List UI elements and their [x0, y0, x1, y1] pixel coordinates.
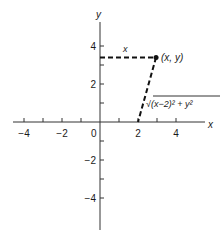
x-tick-label: 2 [135, 128, 141, 139]
y-tick-label: −2 [85, 155, 97, 166]
coordinate-diagram: −4−22442−2−4 y x 0 (x, y) x √(x−2)² + y² [0, 0, 220, 241]
x-tick-label: −2 [56, 128, 68, 139]
point-marker [154, 55, 159, 60]
focus-distance-segment [138, 57, 156, 122]
y-axis-label: y [95, 9, 102, 20]
x-tick-label: −4 [18, 128, 30, 139]
y-tick-label: 4 [90, 41, 96, 52]
y-tick-label: 2 [90, 79, 96, 90]
x-tick-label: 4 [173, 128, 179, 139]
origin-label: 0 [91, 128, 97, 139]
horizontal-distance-label: x [122, 44, 128, 54]
distance-formula-label: √(x−2)² + y² [146, 99, 193, 109]
x-axis-label: x [207, 119, 214, 130]
point-label: (x, y) [161, 52, 183, 63]
y-tick-label: −4 [85, 193, 97, 204]
